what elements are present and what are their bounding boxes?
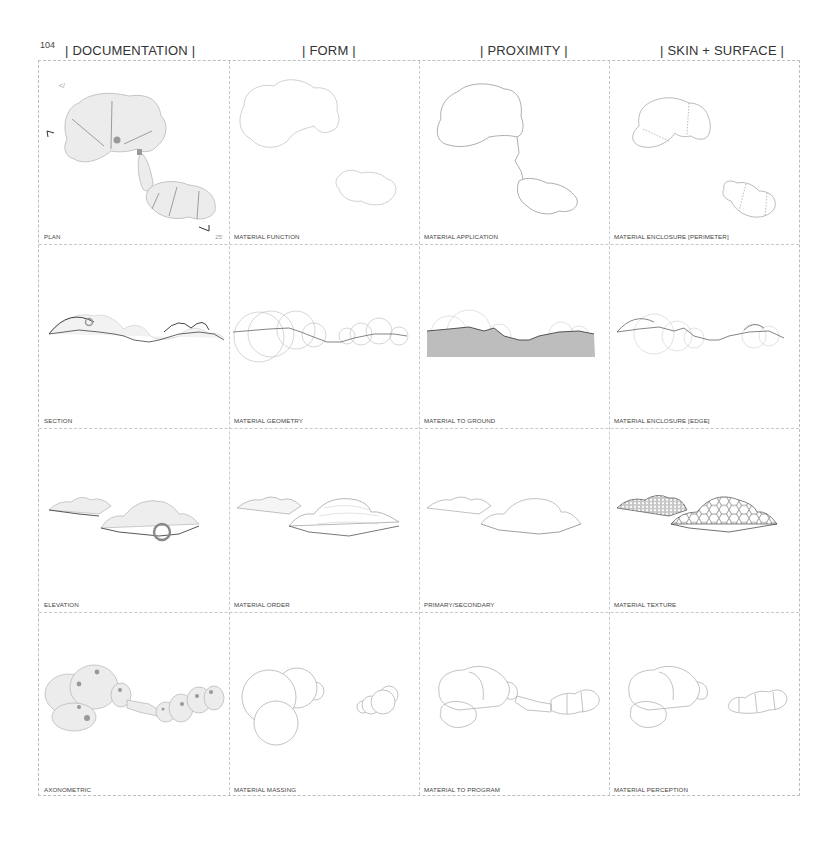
cell-label: ELEVATION [44,601,79,608]
cell-material-to-program: MATERIAL TO PROGRAM [419,612,609,797]
cell-label: MATERIAL ENCLOSURE [EDGE] [614,417,710,424]
texture-drawing [609,428,799,612]
cell-material-order: MATERIAL ORDER [229,428,419,612]
drawing-grid: </ 25' PLAN MATERIAL FUNCTION [38,60,800,796]
plan-drawing: </ [39,61,229,244]
geometry-drawing [229,244,419,428]
massing-drawing [229,612,419,797]
cell-label: MATERIAL TO PROGRAM [424,786,500,793]
cell-label: MATERIAL TEXTURE [614,601,676,608]
primary-secondary-drawing [419,428,609,612]
enclosure-perimeter-drawing [609,61,799,244]
cell-material-enclosure-perimeter: MATERIAL ENCLOSURE [PERIMETER] [609,61,799,244]
order-drawing [229,428,419,612]
elevation-drawing [39,428,229,612]
column-header-skin-surface: | SKIN + SURFACE | [660,43,784,58]
cell-label: MATERIAL APPLICATION [424,233,498,240]
application-drawing [419,61,609,244]
column-header-documentation: | DOCUMENTATION | [65,43,195,58]
cell-material-perception: MATERIAL PERCEPTION [609,612,799,797]
cell-material-to-ground: MATERIAL TO GROUND [419,244,609,428]
cell-section: SECTION [39,244,229,428]
cell-label: PLAN [44,233,61,240]
cell-label: MATERIAL MASSING [234,786,296,793]
enclosure-edge-drawing [609,244,799,428]
ground-drawing [419,244,609,428]
axonometric-drawing [39,612,229,797]
column-header-proximity: | PROXIMITY | [480,43,568,58]
cell-label: MATERIAL PERCEPTION [614,786,688,793]
cell-material-geometry: MATERIAL GEOMETRY [229,244,419,428]
cell-label: PRIMARY/SECONDARY [424,601,495,608]
cell-label: AXONOMETRIC [44,786,91,793]
cell-plan: </ 25' PLAN [39,61,229,244]
cell-elevation: ELEVATION [39,428,229,612]
program-drawing [419,612,609,797]
cell-material-function: MATERIAL FUNCTION [229,61,419,244]
cell-material-texture: MATERIAL TEXTURE [609,428,799,612]
cell-label: MATERIAL TO GROUND [424,417,495,424]
svg-text:</: </ [59,82,65,89]
cell-material-enclosure-edge: MATERIAL ENCLOSURE [EDGE] [609,244,799,428]
cell-axonometric: AXONOMETRIC [39,612,229,797]
perception-drawing [609,612,799,797]
cell-label: SECTION [44,417,72,424]
cell-label: MATERIAL ENCLOSURE [PERIMETER] [614,233,729,240]
page-number: 104 [40,40,55,50]
cell-label: MATERIAL GEOMETRY [234,417,303,424]
column-header-form: | FORM | [302,43,356,58]
cell-primary-secondary: PRIMARY/SECONDARY [419,428,609,612]
section-drawing [39,244,229,428]
cell-material-application: MATERIAL APPLICATION [419,61,609,244]
cell-label: MATERIAL FUNCTION [234,233,300,240]
cell-label: MATERIAL ORDER [234,601,290,608]
cell-material-massing: MATERIAL MASSING [229,612,419,797]
scale-bar-label: 25' [215,234,223,240]
function-drawing [229,61,419,244]
